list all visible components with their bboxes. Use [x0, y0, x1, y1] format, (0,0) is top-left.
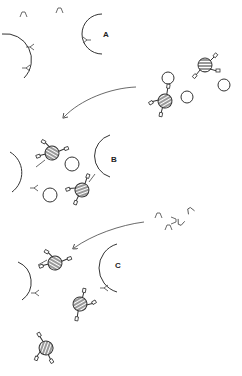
bead-icon — [218, 79, 230, 91]
diagram-canvas: A B C — [0, 0, 242, 376]
bead-link — [36, 160, 45, 167]
ligand-icon — [155, 213, 162, 218]
ligand-icon — [186, 207, 195, 215]
receptor-icon — [100, 285, 108, 291]
antibody-bead-icon — [145, 83, 182, 119]
antibody-bead-icon — [192, 53, 220, 79]
ligand-icon — [56, 8, 63, 13]
panel-c: C — [18, 244, 121, 367]
label-b: B — [111, 155, 117, 164]
arrow-a-to-b — [64, 87, 136, 117]
cell-left-b — [10, 152, 22, 192]
ligand-icon — [20, 12, 27, 17]
antibody-bead-icon — [63, 286, 100, 322]
receptor-icon — [31, 290, 39, 296]
cell-left-a — [2, 34, 31, 78]
cell-left-c — [18, 262, 31, 300]
panel-b: B — [10, 134, 117, 207]
receptor-icon — [83, 37, 91, 43]
ligand-icon — [171, 217, 176, 224]
bead-icon — [181, 91, 193, 103]
receptor-icon — [30, 185, 38, 191]
label-a: A — [103, 30, 109, 39]
ligand-icon — [176, 219, 184, 226]
antibody-bead-icon — [63, 173, 98, 207]
panel-a: A — [2, 8, 230, 119]
free-ligands — [155, 207, 195, 231]
label-c: C — [115, 261, 121, 270]
antibody-bead-icon — [33, 134, 70, 170]
bead-icon — [65, 157, 79, 171]
receptor-icon — [22, 65, 30, 71]
arrow-b-to-c — [74, 222, 144, 248]
bead-icon — [162, 72, 174, 84]
antibody-bead-icon — [36, 244, 73, 280]
bead-icon — [43, 188, 57, 202]
cell-b — [95, 135, 110, 177]
antibody-bead-icon — [28, 331, 62, 366]
cell-a — [82, 14, 102, 54]
ligand-icon — [165, 225, 172, 230]
